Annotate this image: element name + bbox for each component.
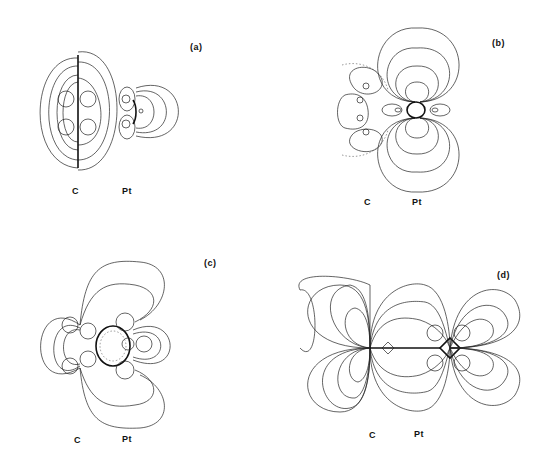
panel-c: (c) C Pt xyxy=(0,230,270,464)
atom-label-c: C xyxy=(364,197,371,207)
panel-label: (d) xyxy=(497,270,510,280)
contour-plot-a xyxy=(0,0,270,230)
atom-label-c: C xyxy=(369,430,376,440)
panel-b: (b) C Pt xyxy=(270,0,535,230)
panel-label: (b) xyxy=(492,38,505,48)
contour-plot-b xyxy=(270,0,535,230)
atom-label-c: C xyxy=(74,435,81,445)
atom-label-pt: Pt xyxy=(414,429,424,439)
panel-d: (d) C Pt xyxy=(270,230,535,464)
contour-plot-c xyxy=(0,230,270,464)
panel-label: (c) xyxy=(204,258,217,268)
atom-label-pt: Pt xyxy=(122,434,132,444)
contour-plot-d xyxy=(270,230,535,464)
atom-label-pt: Pt xyxy=(412,197,422,207)
panel-label: (a) xyxy=(190,42,203,52)
atom-label-c: C xyxy=(72,186,79,196)
atom-label-pt: Pt xyxy=(122,186,132,196)
panel-a: (a) C Pt xyxy=(0,0,270,230)
